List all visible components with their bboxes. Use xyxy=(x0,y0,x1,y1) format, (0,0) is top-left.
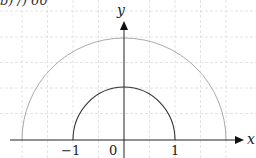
y-axis-label: y xyxy=(116,2,126,18)
grid xyxy=(0,0,256,158)
x-axis-label: x xyxy=(247,131,255,147)
y-axis xyxy=(120,21,128,158)
tick-label-1: 1 xyxy=(171,143,179,158)
y-axis-arrow-icon xyxy=(120,21,128,30)
origin-label: 0 xyxy=(109,143,117,158)
x-axis-arrow-icon xyxy=(235,136,244,144)
semicircles-diagram: x y 0 −1 1 xyxy=(0,0,256,158)
tick-label-neg1: −1 xyxy=(61,143,80,158)
x-axis xyxy=(10,136,244,144)
